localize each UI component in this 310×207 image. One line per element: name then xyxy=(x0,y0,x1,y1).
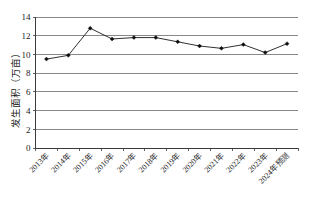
x-tick-label: 2022年 xyxy=(224,150,248,174)
y-tick-label: 2 xyxy=(26,125,31,135)
data-point-marker xyxy=(241,43,245,47)
data-point-marker xyxy=(176,40,180,44)
data-point-marker xyxy=(198,44,202,48)
y-axis-title-group: 发生面积（万亩） xyxy=(10,48,21,128)
y-axis-title: 发生面积（万亩） xyxy=(10,48,21,128)
data-markers xyxy=(44,26,289,61)
x-tick-label: 2013年 xyxy=(27,150,51,174)
y-tick-label: 12 xyxy=(22,31,31,41)
x-tick-label: 2015年 xyxy=(71,150,95,174)
line-chart: 发生面积（万亩） 02468101214 2013年2014年2015年2016… xyxy=(0,0,310,207)
x-tick-label: 2018年 xyxy=(136,150,160,174)
x-tick-label: 2021年 xyxy=(202,150,226,174)
y-tick-label: 6 xyxy=(26,87,31,97)
x-tick-label: 2017年 xyxy=(114,150,138,174)
y-tick-label: 4 xyxy=(26,106,31,116)
y-tick-label: 8 xyxy=(26,68,31,78)
y-axis-ticks: 02468101214 xyxy=(22,12,36,153)
data-point-marker xyxy=(154,36,158,40)
data-point-marker xyxy=(263,51,267,55)
data-point-marker xyxy=(285,42,289,46)
x-tick-label: 2016年 xyxy=(92,150,116,174)
chart-container: 发生面积（万亩） 02468101214 2013年2014年2015年2016… xyxy=(0,0,310,207)
y-tick-label: 14 xyxy=(22,12,32,22)
gridlines xyxy=(36,17,299,129)
x-tick-label: 2014年 xyxy=(49,150,73,174)
axes xyxy=(36,17,299,149)
data-point-marker xyxy=(132,36,136,40)
y-tick-label: 10 xyxy=(22,50,32,60)
data-point-marker xyxy=(110,37,114,41)
data-point-marker xyxy=(219,46,223,50)
x-tick-label: 2019年 xyxy=(158,150,182,174)
x-axis-ticks: 2013年2014年2015年2016年2017年2018年2019年2020年… xyxy=(27,148,298,186)
x-tick-label: 2020年 xyxy=(180,150,204,174)
y-tick-label: 0 xyxy=(26,143,31,153)
data-point-marker xyxy=(44,57,48,61)
